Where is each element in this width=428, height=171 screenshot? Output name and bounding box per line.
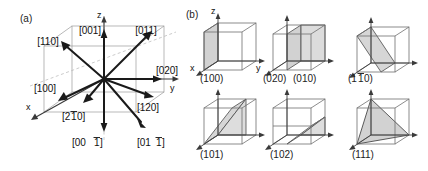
label-direction-120: [120]	[137, 102, 159, 113]
z-axis-label-a: z	[97, 10, 102, 20]
z-axis-arrowhead-cell-102	[285, 89, 290, 95]
z-axis-arrowhead-cell-101	[216, 89, 221, 95]
label-direction-110: [110]	[37, 36, 59, 47]
plane-cell-020-010: (020) (010)	[263, 15, 334, 84]
arrowhead-020	[153, 76, 162, 83]
vector-100	[64, 79, 104, 98]
panel-b-label: (b)	[186, 9, 198, 20]
plane-cell-1bar10: (1 1 0)	[348, 17, 418, 84]
panel-a: (a) z y	[20, 10, 179, 148]
label-00bar1-part3: ]	[100, 137, 103, 148]
plane-label-010: (010)	[293, 73, 316, 84]
plane-label-020: (020)	[263, 73, 286, 84]
y-axis-label-a: y	[170, 83, 175, 93]
arrowhead-001	[101, 29, 108, 38]
z-axis-arrowhead-cell-100	[216, 13, 221, 19]
plane-fill-020	[287, 25, 301, 70]
plane-label-102: (102)	[270, 149, 293, 160]
panel-a-label: (a)	[20, 13, 32, 24]
y-axis-arrowhead-a	[173, 76, 180, 81]
plane-label-1bar10-part3: 0)	[364, 73, 373, 84]
panel-b: (b) z y x	[186, 6, 418, 160]
plane-label-101: (101)	[200, 149, 223, 160]
plane-label-1bar10-part1: (1	[348, 73, 357, 84]
x-axis-label-b: x	[190, 63, 195, 73]
label-direction-001: [001]	[79, 25, 101, 36]
plane-label-111: (111)	[352, 149, 374, 160]
plane-fill-111	[357, 99, 409, 144]
plane-cell-102: (102)	[265, 89, 334, 160]
plane-fill-100	[204, 23, 218, 70]
figure-svg: (a) z y	[0, 0, 428, 171]
plane-cell-100: z y x (100)	[190, 6, 265, 84]
y-axis-arrowhead-cell-102	[328, 133, 334, 138]
label-01bar1-part1: [01	[137, 137, 151, 148]
label-01bar1-part3: ]	[162, 137, 165, 148]
figure-root: (a) z y	[0, 0, 428, 171]
label-direction-011: [011]	[135, 25, 157, 36]
label-00bar1-part1: [00	[72, 137, 86, 148]
z-axis-arrowhead-a	[101, 16, 106, 23]
z-axis-label-b: z	[211, 6, 216, 16]
y-axis-arrowhead-cell-101	[259, 133, 265, 138]
plane-label-100: (100)	[200, 73, 223, 84]
y-axis-arrowhead-cell-1bar10	[412, 61, 418, 66]
vector-011	[104, 36, 147, 79]
label-direction-020: [020]	[156, 65, 178, 76]
label-direction-2bar10: [2 1 0]	[62, 111, 86, 122]
plane-fill-1bar10	[357, 27, 395, 72]
label-direction-00bar1: [00 1 ]	[72, 137, 103, 148]
z-axis-arrowhead-cell-020	[285, 15, 290, 21]
cube-wireframe-102	[273, 99, 325, 144]
plane-label-1bar10: (1 1 0)	[348, 73, 373, 84]
label-2bar10-part3: 0]	[77, 111, 86, 122]
x-axis-label-a: x	[26, 102, 31, 112]
plane-fill-010	[301, 25, 325, 61]
y-axis-arrowhead-cell-111	[412, 133, 418, 138]
z-axis-arrowhead-cell-111	[369, 89, 374, 95]
z-axis-arrowhead-cell-1bar10	[369, 17, 374, 23]
plane-cell-111: (111)	[349, 89, 418, 160]
label-direction-100: [100]	[34, 83, 56, 94]
y-axis-arrowhead-cell-020	[328, 59, 334, 64]
y-axis-label-b: y	[256, 63, 261, 73]
plane-cell-101: (101)	[196, 89, 265, 160]
arrowhead-2bar10	[83, 94, 94, 104]
label-direction-01bar1: [01 1 ]	[137, 137, 165, 148]
label-2bar10-part1: [2	[62, 111, 71, 122]
arrowhead-00bar1	[101, 123, 108, 132]
